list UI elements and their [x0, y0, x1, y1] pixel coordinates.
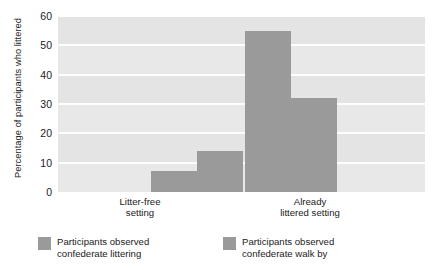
legend-swatch-icon: [223, 237, 236, 250]
y-tick-label: 50: [6, 40, 52, 51]
x-axis-label-already-littered: Already littered setting: [245, 196, 375, 219]
legend-label-line: confederate littering: [57, 248, 149, 260]
legend-label-line: confederate walk by: [242, 248, 334, 260]
x-axis-label-litter-free: Litter-free setting: [80, 196, 200, 219]
bar-already-littered-walk-by: [291, 98, 337, 192]
legend-label-line: Participants observed: [57, 236, 149, 248]
y-tick-label: 20: [6, 128, 52, 139]
legend-item-confederate-littering: Participants observed confederate litter…: [38, 236, 203, 259]
y-tick-label: 30: [6, 99, 52, 110]
plot-band: [58, 16, 425, 45]
gridline: [58, 44, 425, 46]
legend-item-confederate-walk-by: Participants observed confederate walk b…: [223, 236, 388, 259]
x-label-line: littered setting: [245, 207, 375, 218]
gridline: [58, 103, 425, 105]
bar-litter-free-littering: [151, 171, 197, 192]
legend: Participants observed confederate litter…: [38, 236, 388, 259]
y-axis-tick-labels: 60 50 40 30 20 10 0: [0, 0, 52, 270]
legend-swatch-icon: [38, 237, 51, 250]
y-tick-label: 0: [6, 187, 52, 198]
bar-litter-free-walk-by: [197, 151, 243, 192]
y-tick-label: 10: [6, 158, 52, 169]
bar-already-littered-littering: [245, 31, 291, 192]
x-label-line: Litter-free: [80, 196, 200, 207]
y-tick-label: 40: [6, 70, 52, 81]
legend-label: Participants observed confederate litter…: [57, 236, 149, 259]
bar-chart: Percentage of participants who littered …: [0, 0, 436, 270]
gridline: [58, 132, 425, 134]
x-label-line: Already: [245, 196, 375, 207]
gridline: [58, 16, 425, 17]
plot-area: [58, 16, 425, 192]
gridline: [58, 74, 425, 76]
x-label-line: setting: [80, 207, 200, 218]
legend-label-line: Participants observed: [242, 236, 334, 248]
legend-label: Participants observed confederate walk b…: [242, 236, 334, 259]
y-tick-label: 60: [6, 11, 52, 22]
plot-band: [58, 75, 425, 104]
